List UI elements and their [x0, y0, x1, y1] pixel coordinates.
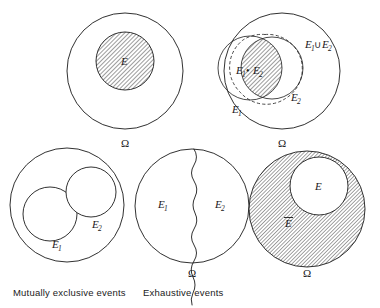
event-E2-label: E 2 — [91, 218, 102, 233]
panel-event-E: E Ω — [67, 13, 183, 149]
svg-text:•: • — [246, 65, 250, 76]
sample-space-label-omega-1: Ω — [121, 137, 129, 149]
svg-text:2: 2 — [328, 44, 332, 53]
event-E1-label: E 1 — [231, 103, 242, 118]
figure-canvas: E Ω E 1 • E 2 — [0, 0, 380, 308]
venn-diagram-figure: E Ω E 1 • E 2 — [0, 0, 380, 308]
caption-mutually-exclusive: Mutually exclusive events — [13, 287, 126, 298]
svg-text:E: E — [284, 217, 292, 229]
svg-text:2: 2 — [259, 70, 263, 79]
sample-space-circle — [135, 149, 249, 263]
sample-space-label-omega-3: Ω — [188, 267, 196, 279]
event-E1-label: E 1 — [51, 238, 62, 253]
sample-space-label-omega-4: Ω — [303, 267, 311, 279]
event-E2-label: E 2 — [214, 198, 225, 213]
svg-text:2: 2 — [297, 97, 301, 106]
event-E-label: E — [120, 55, 128, 67]
complement-E-label: E — [284, 217, 293, 229]
svg-text:2: 2 — [98, 224, 102, 233]
svg-text:1: 1 — [58, 244, 62, 253]
panel-union-intersection: E 1 • E 2 E 1 ∪ E 2 E 1 E 2 — [218, 13, 340, 149]
svg-text:∪: ∪ — [314, 39, 321, 50]
panel-exhaustive: E 1 E 2 Ω — [135, 149, 249, 305]
union-label: E 1 ∪ E 2 — [304, 38, 332, 53]
svg-text:1: 1 — [238, 109, 242, 118]
svg-text:1: 1 — [164, 204, 168, 213]
caption-exhaustive: Exhaustive events — [143, 287, 224, 298]
event-E-label: E — [314, 180, 322, 192]
svg-text:2: 2 — [221, 204, 225, 213]
panel-mutually-exclusive: E 1 E 2 — [10, 148, 124, 262]
sample-space-label-omega-2: Ω — [278, 137, 286, 149]
panel-complement: E E Ω — [249, 151, 365, 279]
event-E1-label: E 1 — [157, 198, 168, 213]
event-E2-circle — [66, 167, 116, 217]
exhaustive-divider-wavy-line — [191, 149, 197, 305]
event-E2-label: E 2 — [290, 91, 301, 106]
